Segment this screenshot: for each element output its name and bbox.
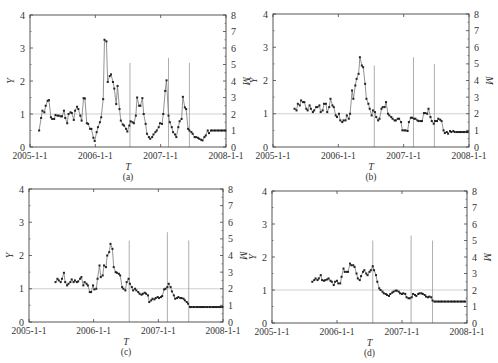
data-point-marker [211,130,213,132]
data-point-marker [171,126,173,128]
data-point-marker [433,123,435,125]
data-point-marker [405,129,407,131]
data-point-marker [120,120,122,122]
data-point-marker [388,295,390,297]
data-point-marker [300,99,302,101]
data-point-marker [129,283,131,285]
data-point-marker [136,97,138,99]
data-point-marker [398,118,400,120]
x-tick-label: 2007-1-1 [141,326,176,336]
data-point-marker [457,131,459,133]
data-point-marker [328,106,330,108]
data-point-marker [108,251,110,253]
data-point-marker [198,138,200,140]
data-point-marker [185,108,187,110]
data-point-marker [328,277,330,279]
data-point-marker [294,108,296,110]
data-point-marker [372,109,374,111]
y2-tick-label: 6 [472,219,477,230]
y2-tick-label: 3 [228,267,233,278]
data-point-marker [404,293,406,295]
data-point-marker [401,129,403,131]
data-point-marker [158,297,160,299]
data-point-marker [418,120,420,122]
data-point-marker [303,101,305,103]
data-point-marker [93,288,95,290]
data-point-marker [331,281,333,283]
data-point-marker [320,274,322,276]
data-point-marker [338,113,340,115]
data-point-marker [164,90,166,92]
y2-tick-label: 7 [474,25,479,36]
data-point-marker [429,116,431,118]
data-point-marker [181,297,183,299]
panel-b: 2005-1-12006-1-12007-1-12008-1-101234012… [248,9,495,184]
data-point-marker [467,131,469,133]
data-point-marker [421,120,423,122]
data-point-marker [175,136,177,138]
data-point-marker [320,111,322,113]
data-point-marker [426,113,428,115]
data-point-marker [297,103,299,105]
data-point-marker [100,276,102,278]
data-point-marker [339,282,341,284]
y2-tick-label: 8 [228,184,233,195]
data-point-marker [392,118,394,120]
data-point-marker [151,136,153,138]
data-point-marker [323,103,325,105]
y2-tick-label: 4 [231,76,236,87]
data-point-marker [66,122,68,124]
data-point-marker [102,98,104,100]
y2-tick-label: 5 [228,233,233,244]
x-tick-label: 2008-1-1 [206,326,241,336]
data-point-marker [432,300,434,302]
data-point-marker [443,129,445,131]
y-tick-label: 2 [263,75,268,86]
data-point-marker [68,113,70,115]
data-point-marker [117,85,119,87]
data-point-marker [349,113,351,115]
data-point-marker [67,283,69,285]
data-point-marker [208,132,210,134]
data-point-marker [356,78,358,80]
data-point-marker [161,295,163,297]
y2-tick-label: 6 [231,43,236,54]
data-point-marker [437,118,439,120]
y2-tick-label: 8 [231,10,236,21]
data-point-marker [82,284,84,286]
data-point-marker [348,118,350,120]
x-tick-label: 2005-1-1 [13,151,48,161]
data-point-marker [406,296,408,298]
y2-tick-label: 2 [474,108,479,119]
plot-frame [273,14,469,147]
y2-axis-label: M [482,252,493,262]
data-point-marker [106,255,108,257]
data-point-marker [367,103,369,105]
y2-tick-label: 0 [228,317,233,328]
data-point-marker [351,89,353,91]
data-point-marker [102,274,104,276]
data-point-marker [162,113,164,115]
y2-tick-label: 6 [228,217,233,228]
data-point-marker [343,119,345,121]
data-point-marker [218,130,220,132]
y2-tick-label: 5 [472,235,477,246]
data-point-marker [310,108,312,110]
data-point-marker [135,289,137,291]
y-tick-label: 2 [20,76,25,87]
data-point-marker [103,39,105,41]
data-point-marker [58,115,60,117]
data-point-marker [195,136,197,138]
data-point-marker [367,274,369,276]
data-point-marker [318,104,320,106]
data-point-marker [61,115,63,117]
data-point-marker [200,306,202,308]
data-point-marker [40,117,42,119]
y-series-line [39,40,225,141]
data-point-marker [113,88,115,90]
data-point-marker [145,293,147,295]
data-point-marker [346,114,348,116]
data-point-marker [81,120,83,122]
data-point-marker [315,277,317,279]
data-point-marker [63,110,65,112]
